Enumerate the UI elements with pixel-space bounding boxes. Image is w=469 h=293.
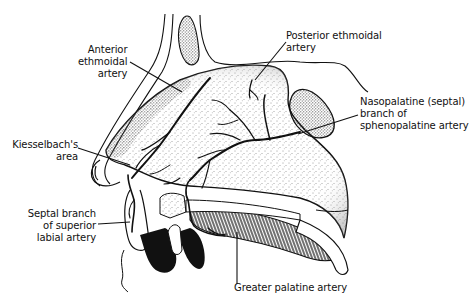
label-line: Nasopalatine (septal): [360, 96, 469, 108]
label-greater-palatine-artery: Greater palatine artery: [234, 282, 347, 293]
label-line: of superior: [20, 220, 96, 232]
label-line: Greater palatine artery: [234, 282, 347, 293]
label-septal-branch-superior-labial-artery: Septal branch of superior labial artery: [20, 208, 96, 244]
label-posterior-ethmoidal-artery: Posterior ethmoidal artery: [286, 30, 382, 54]
label-nasopalatine-artery: Nasopalatine (septal) branch of sphenopa…: [360, 96, 469, 132]
label-anterior-ethmoidal-artery: Anterior ethmoidal artery: [78, 44, 127, 80]
label-line: labial artery: [20, 232, 96, 244]
label-line: Anterior: [78, 44, 127, 56]
label-kiesselbachs-area: Kiesselbach's area: [10, 139, 78, 163]
label-line: area: [10, 151, 78, 163]
label-line: Posterior ethmoidal: [286, 30, 382, 42]
label-line: sphenopalatine artery: [360, 120, 469, 132]
label-line: branch of: [360, 108, 469, 120]
label-line: artery: [286, 42, 382, 54]
label-line: Kiesselbach's: [10, 139, 78, 151]
label-line: ethmoidal: [78, 56, 127, 68]
label-line: Septal branch: [20, 208, 96, 220]
columella: [91, 160, 148, 250]
label-line: artery: [78, 68, 127, 80]
frontal-sinus: [179, 16, 200, 65]
